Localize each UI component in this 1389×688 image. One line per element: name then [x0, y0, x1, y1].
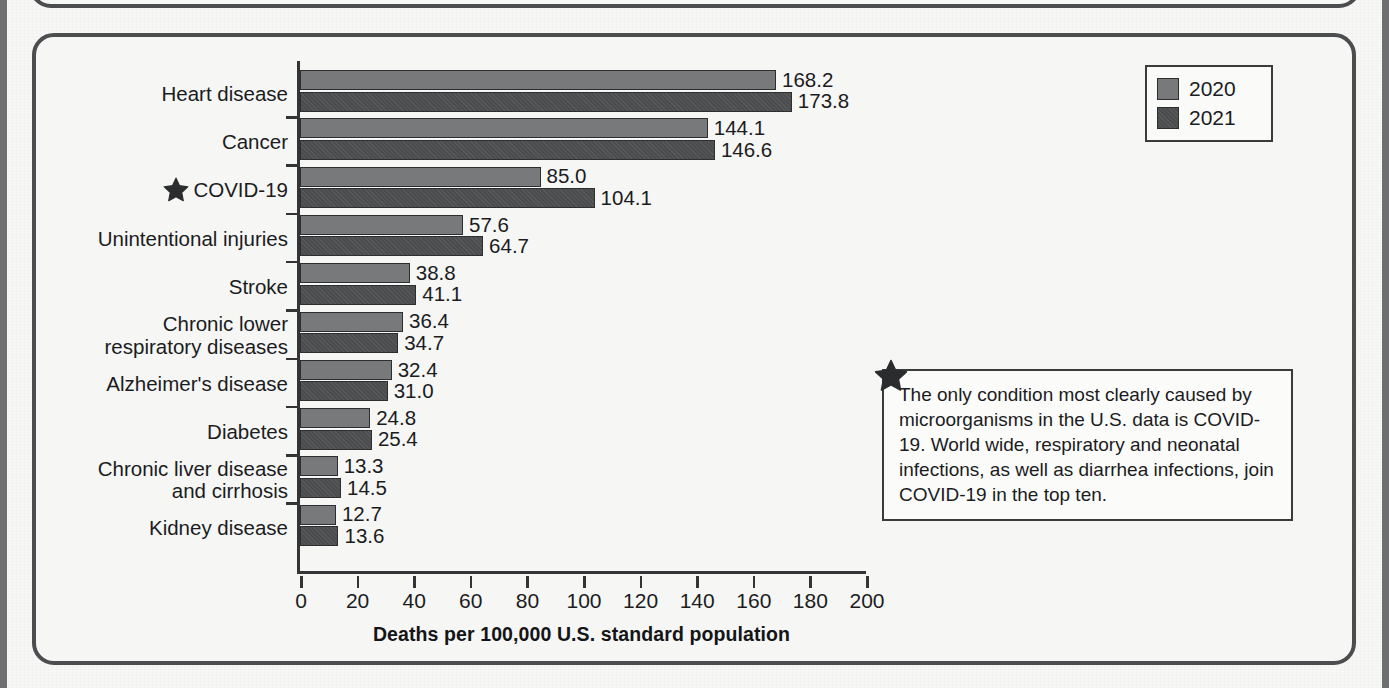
bar-2020: [300, 263, 410, 283]
bar-row: 24.8: [300, 408, 416, 428]
bar-value-label: 34.7: [404, 333, 444, 354]
bar-2020: [300, 167, 541, 187]
bar-value-label: 104.1: [601, 188, 652, 209]
x-axis-tick: [753, 576, 756, 588]
x-axis-tick: [413, 576, 416, 588]
bar-value-label: 144.1: [714, 118, 765, 139]
bar-value-label: 32.4: [398, 360, 438, 381]
bar-row: 34.7: [300, 333, 444, 353]
bar-row: 104.1: [300, 188, 652, 208]
plot-area: 168.2173.8144.1146.685.0104.157.664.738.…: [297, 61, 863, 572]
bar-2021: [300, 430, 372, 450]
bar-2020: [300, 312, 403, 332]
category-label-text: Kidney disease: [149, 517, 288, 540]
x-axis-tick-label: 140: [680, 590, 715, 611]
category-label-text: Diabetes: [207, 421, 288, 444]
bar-2020: [300, 505, 336, 525]
bar-row: 25.4: [300, 430, 418, 450]
bar-value-label: 13.6: [344, 526, 384, 547]
bar-2020: [300, 118, 708, 138]
bar-row: 32.4: [300, 360, 438, 380]
y-axis-tick: [286, 116, 298, 119]
bar-row: 36.4: [300, 312, 449, 332]
x-axis-tick-label: 160: [736, 590, 771, 611]
bar-row: 146.6: [300, 140, 772, 160]
x-axis-title: Deaths per 100,000 U.S. standard populat…: [297, 623, 866, 646]
x-axis-tick: [357, 576, 360, 588]
bar-value-label: 36.4: [409, 311, 449, 332]
legend-swatch-2020: [1157, 78, 1179, 100]
bar-row: 13.6: [300, 526, 384, 546]
bar-value-label: 146.6: [721, 140, 772, 161]
bar-row: 173.8: [300, 92, 849, 112]
page-canvas: Heart diseaseCancerCOVID-19Unintentional…: [0, 0, 1389, 688]
bar-value-label: 173.8: [798, 91, 849, 112]
y-axis-tick: [286, 309, 298, 312]
x-axis-tick-label: 0: [295, 590, 307, 611]
bar-row: 168.2: [300, 70, 833, 90]
bar-row: 12.7: [300, 505, 382, 525]
y-axis-tick: [286, 454, 298, 457]
x-axis-tick-label: 80: [516, 590, 539, 611]
previous-figure-box: [29, 0, 1361, 8]
category-label-text: Alzheimer's disease: [106, 373, 288, 396]
category-label-text: Stroke: [229, 276, 288, 299]
y-axis-tick: [286, 358, 298, 361]
bar-value-label: 25.4: [378, 429, 418, 450]
category-label-8: Diabetes: [207, 408, 288, 456]
x-axis-tick-label: 200: [849, 590, 884, 611]
category-label-6: Chronic lower respiratory diseases: [105, 312, 288, 360]
bar-2021: [300, 526, 338, 546]
bar-value-label: 168.2: [782, 70, 833, 91]
x-axis-tick-label: 120: [623, 590, 658, 611]
x-axis-tick: [809, 576, 812, 588]
category-label-7: Alzheimer's disease: [106, 360, 288, 408]
page-border-right: [1382, 0, 1389, 688]
x-axis-tick: [300, 576, 303, 588]
bar-row: 14.5: [300, 478, 387, 498]
bar-row: 57.6: [300, 215, 509, 235]
category-axis-labels: Heart diseaseCancerCOVID-19Unintentional…: [36, 61, 292, 572]
bar-value-label: 57.6: [469, 215, 509, 236]
x-axis-tick: [583, 576, 586, 588]
category-label-text: Cancer: [222, 131, 288, 154]
legend-item-2020: 2020: [1157, 74, 1261, 103]
x-axis-tick: [470, 576, 473, 588]
category-label-3: COVID-19: [163, 167, 288, 215]
bar-row: 144.1: [300, 118, 765, 138]
x-axis-tick-label: 100: [566, 590, 601, 611]
x-axis-tick-label: 20: [346, 590, 369, 611]
bar-2021: [300, 381, 388, 401]
bar-value-label: 13.3: [344, 456, 384, 477]
x-axis-tick: [640, 576, 643, 588]
bar-2020: [300, 215, 463, 235]
x-axis-tick-label: 60: [459, 590, 482, 611]
bar-2021: [300, 478, 341, 498]
category-label-text: Chronic liver disease and cirrhosis: [98, 458, 288, 503]
category-label-text: Unintentional injuries: [98, 228, 288, 251]
y-axis-tick: [286, 261, 298, 264]
chart-legend: 2020 2021: [1145, 65, 1273, 142]
bar-2021: [300, 333, 398, 353]
bar-row: 85.0: [300, 167, 586, 187]
bar-row: 13.3: [300, 456, 384, 476]
category-label-2: Cancer: [222, 118, 288, 166]
page-border-left: [0, 0, 7, 688]
callout-text: The only condition most clearly caused b…: [899, 382, 1278, 507]
y-axis-tick: [286, 164, 298, 167]
bar-value-label: 64.7: [489, 236, 529, 257]
bar-2020: [300, 456, 338, 476]
star-marker-icon: [163, 177, 189, 203]
bar-value-label: 41.1: [422, 284, 462, 305]
legend-label-2021: 2021: [1189, 107, 1236, 128]
bar-value-label: 24.8: [376, 408, 416, 429]
category-label-10: Kidney disease: [149, 505, 288, 553]
legend-swatch-2021: [1157, 107, 1179, 129]
bar-2021: [300, 285, 416, 305]
category-label-5: Stroke: [229, 263, 288, 311]
bar-value-label: 31.0: [394, 381, 434, 402]
category-label-9: Chronic liver disease and cirrhosis: [98, 456, 288, 504]
bar-row: 31.0: [300, 381, 434, 401]
star-marker-icon: [874, 359, 908, 393]
bar-2020: [300, 408, 370, 428]
